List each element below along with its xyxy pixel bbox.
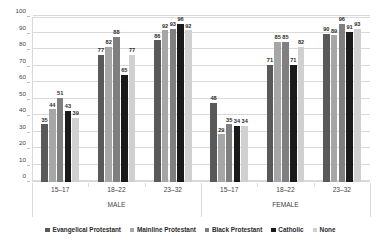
- legend-item[interactable]: None: [313, 227, 336, 233]
- category-label: 23–32: [164, 187, 182, 194]
- bar-slot: 82: [298, 17, 305, 182]
- bar-value-label: 88: [113, 30, 119, 36]
- panel-header-label: MALE: [108, 202, 126, 209]
- bar-slot: 90: [323, 17, 330, 182]
- y-axis-tick-mark: [27, 82, 30, 83]
- bar-slot: 43: [65, 17, 72, 182]
- bar-slot: 71: [267, 17, 274, 182]
- bar-slot: 35: [226, 17, 233, 182]
- bar: 88: [113, 37, 120, 182]
- bar: 92: [162, 30, 169, 182]
- bar: 35: [226, 124, 233, 182]
- y-axis: 0102030405060708090100: [0, 17, 30, 182]
- bar: 96: [177, 24, 184, 182]
- bar-value-label: 92: [185, 24, 191, 30]
- legend-item[interactable]: Catholic: [271, 227, 303, 233]
- bar-slot: 96: [177, 17, 184, 182]
- bar: 51: [57, 98, 64, 182]
- bar: 34: [241, 126, 248, 182]
- legend-swatch-icon: [205, 228, 210, 233]
- bar-slot: 92: [162, 17, 169, 182]
- y-axis-tick-mark: [27, 16, 30, 17]
- y-axis-tick-label: 0: [22, 173, 26, 179]
- axis-separator: [370, 183, 371, 217]
- y-axis-tick-label: 90: [19, 25, 26, 31]
- bar-slot: 29: [218, 17, 225, 182]
- category-label: 18–22: [276, 187, 294, 194]
- bar-value-label: 71: [290, 58, 296, 64]
- bar-value-label: 71: [267, 58, 273, 64]
- y-axis-tick-label: 70: [19, 58, 26, 64]
- bar-value-label: 34: [234, 119, 240, 125]
- bar-slot: 71: [290, 17, 297, 182]
- bar-slot: 93: [354, 17, 361, 182]
- legend-swatch-icon: [313, 228, 318, 233]
- bar-group: 9089969193: [323, 17, 361, 182]
- legend-item[interactable]: Mainline Protestant: [130, 227, 196, 233]
- bar-value-label: 93: [170, 22, 176, 28]
- axis-separator: [201, 183, 202, 217]
- bar-slot: 82: [105, 17, 112, 182]
- y-axis-tick-label: 30: [19, 124, 26, 130]
- bar-value-label: 44: [49, 103, 55, 109]
- legend-item[interactable]: Evangelical Protestant: [45, 227, 121, 233]
- bar-value-label: 34: [242, 119, 248, 125]
- bar: 48: [210, 103, 217, 182]
- axis-separator: [314, 183, 315, 187]
- bar-value-label: 48: [210, 96, 216, 102]
- legend-item[interactable]: Black Protestant: [205, 227, 262, 233]
- bar-slot: 91: [346, 17, 353, 182]
- bar-value-label: 96: [177, 17, 183, 23]
- category-label: 23–32: [333, 187, 351, 194]
- y-axis-tick-label: 10: [19, 157, 26, 163]
- bar-slot: 44: [49, 17, 56, 182]
- legend-swatch-icon: [130, 228, 135, 233]
- bar: 43: [65, 111, 72, 182]
- bar-chart: 0102030405060708090100 35445143397782886…: [0, 0, 381, 252]
- axis-separator: [257, 183, 258, 187]
- bar: 89: [331, 35, 338, 182]
- bar-slot: 85: [282, 17, 289, 182]
- bar-value-label: 35: [226, 118, 232, 124]
- legend-label: Catholic: [278, 227, 303, 233]
- bar-slot: 77: [129, 17, 136, 182]
- bar: 85: [282, 42, 289, 182]
- bar-slot: 77: [98, 17, 105, 182]
- bar: 77: [129, 55, 136, 182]
- bar-value-label: 39: [73, 111, 79, 117]
- bar-value-label: 35: [41, 118, 47, 124]
- bar-slot: 51: [57, 17, 64, 182]
- y-axis-tick-label: 80: [19, 41, 26, 47]
- bar: 93: [170, 29, 177, 182]
- bar-value-label: 65: [121, 68, 127, 74]
- y-axis-tick-mark: [27, 148, 30, 149]
- bar-group: 8692939692: [154, 17, 192, 182]
- bar-value-label: 92: [162, 24, 168, 30]
- bar: 96: [339, 24, 346, 182]
- bar-value-label: 82: [298, 40, 304, 46]
- axis-separator: [32, 183, 33, 217]
- legend-label: None: [320, 227, 336, 233]
- bar-slot: 65: [121, 17, 128, 182]
- bar-slot: 96: [339, 17, 346, 182]
- bar: 39: [72, 118, 79, 182]
- bar-group: 7782886577: [98, 17, 136, 182]
- category-label: 18–22: [107, 187, 125, 194]
- bar: 82: [105, 47, 112, 182]
- bar-value-label: 43: [65, 104, 71, 110]
- category-label: 15–17: [220, 187, 238, 194]
- y-axis-tick-mark: [27, 66, 30, 67]
- bar: 44: [49, 109, 56, 182]
- bar-slot: 34: [241, 17, 248, 182]
- bar: 71: [267, 65, 274, 182]
- bar-group: 4829353434: [210, 17, 248, 182]
- y-axis-tick-label: 100: [15, 8, 26, 14]
- bar: 82: [298, 47, 305, 182]
- legend-swatch-icon: [45, 228, 50, 233]
- bar-slot: 89: [331, 17, 338, 182]
- y-axis-tick-label: 40: [19, 107, 26, 113]
- bar: 35: [41, 124, 48, 182]
- bar-value-label: 77: [129, 48, 135, 54]
- bar-slot: 92: [185, 17, 192, 182]
- gridline: [33, 15, 370, 16]
